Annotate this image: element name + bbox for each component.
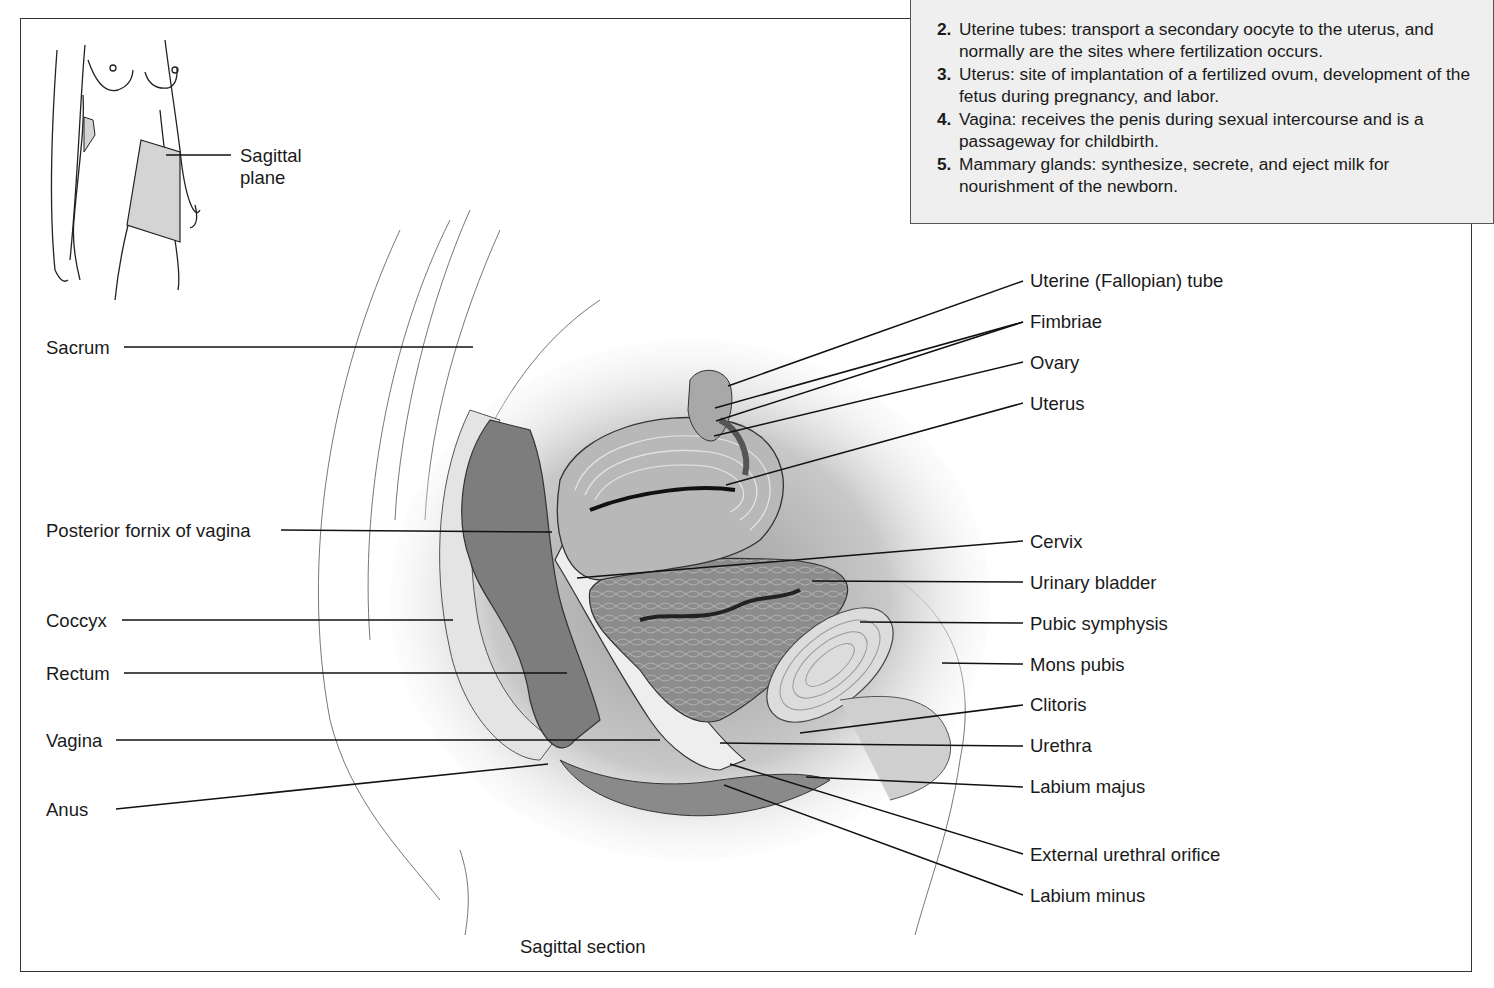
label-rectum: Rectum [46,664,110,684]
label-cervix: Cervix [1030,532,1082,552]
function-text: Mammary glands: synthesize, secrete, and… [959,154,1389,196]
label-ovary: Ovary [1030,353,1079,373]
label-fimbriae: Fimbriae [1030,312,1102,332]
function-item: 4. Vagina: receives the penis during sex… [911,108,1493,152]
label-urinary-bladder: Urinary bladder [1030,573,1156,593]
sagittal-plane-back [84,117,95,152]
label-labium-majus: Labium majus [1030,777,1145,797]
sagittal-plane-label-line1: Sagittal [240,145,302,167]
label-vagina: Vagina [46,731,102,751]
label-clitoris: Clitoris [1030,695,1087,715]
sagittal-plane-label: Sagittal plane [240,145,302,189]
label-mons-pubis: Mons pubis [1030,655,1125,675]
function-number: 4. [937,108,951,130]
label-posterior-fornix: Posterior fornix of vagina [46,521,251,541]
function-number: 3. [937,63,951,85]
label-coccyx: Coccyx [46,611,107,631]
label-external-urethral-orifice: External urethral orifice [1030,845,1220,865]
label-pubic-symphysis: Pubic symphysis [1030,614,1168,634]
function-text: Uterus: site of implantation of a fertil… [959,64,1470,106]
label-uterus: Uterus [1030,394,1085,414]
function-text: Vagina: receives the penis during sexual… [959,109,1424,151]
label-sacrum: Sacrum [46,338,110,358]
sagittal-plane-label-line2: plane [240,167,302,189]
function-number: 2. [937,18,951,40]
function-item: 3. Uterus: site of implantation of a fer… [911,63,1493,107]
label-uterine-tube: Uterine (Fallopian) tube [1030,271,1223,291]
label-labium-minus: Labium minus [1030,886,1145,906]
function-item: 5. Mammary glands: synthesize, secrete, … [911,153,1493,197]
function-item: 2. Uterine tubes: transport a secondary … [911,18,1493,62]
function-number: 5. [937,153,951,175]
label-urethra: Urethra [1030,736,1092,756]
function-text: Uterine tubes: transport a secondary ooc… [959,19,1434,61]
label-anus: Anus [46,800,88,820]
functions-box: 2. Uterine tubes: transport a secondary … [910,0,1494,224]
